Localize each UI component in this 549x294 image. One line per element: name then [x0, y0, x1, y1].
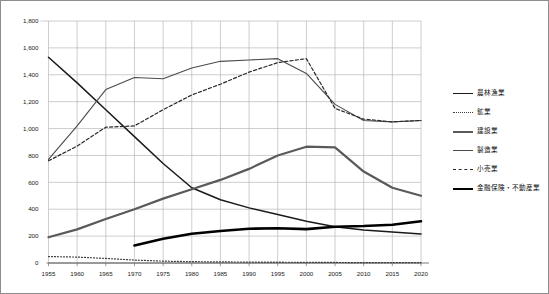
x-axis-tick-label: 2015	[385, 270, 399, 277]
y-axis-tick-label: 1,400	[23, 71, 39, 78]
legend-item[interactable]: 建設業	[453, 125, 549, 144]
x-axis-tick-label: 2000	[300, 270, 314, 277]
legend-item[interactable]: 農林漁業	[453, 87, 549, 106]
x-axis-tick-label: 2010	[357, 270, 371, 277]
legend-item[interactable]: 鉱業	[453, 106, 549, 125]
legend-line-swatch-icon	[453, 169, 473, 172]
legend-item-label: 建設業	[477, 127, 498, 135]
x-axis-tick-label: 1960	[70, 270, 84, 277]
legend-item[interactable]: 金融保険・不動産業	[453, 182, 549, 201]
legend-item-label: 製造業	[477, 146, 498, 154]
legend-item-label: 農林漁業	[477, 89, 505, 97]
series-line	[49, 147, 422, 237]
legend-item[interactable]: 小売業	[453, 163, 549, 182]
x-axis-tick-label: 1955	[42, 270, 56, 277]
x-axis-tick-label: 1970	[128, 270, 142, 277]
y-axis-tick-label: 0	[35, 259, 39, 266]
legend-line-swatch-icon	[453, 93, 473, 96]
legend-item-label: 小売業	[477, 165, 498, 173]
y-axis-tick-label: 1,800	[23, 17, 39, 24]
legend-line-swatch-icon	[453, 188, 473, 191]
legend-line-swatch-icon	[453, 112, 473, 115]
x-axis-labels: 1955196019651970197519801985199019952000…	[42, 270, 429, 277]
series-line	[49, 59, 422, 161]
x-axis-tick-label: 2005	[328, 270, 342, 277]
x-axis-tick-label: 1995	[271, 270, 285, 277]
x-axis-tick-label: 1980	[185, 270, 199, 277]
x-axis-ticks	[49, 263, 422, 266]
y-axis-tick-label: 600	[28, 179, 39, 186]
y-axis-tick-label: 1,600	[23, 44, 39, 51]
x-axis-tick-label: 1965	[99, 270, 113, 277]
legend-line-swatch-icon	[453, 131, 473, 134]
series-line	[49, 57, 422, 234]
x-axis-tick-label: 1990	[242, 270, 256, 277]
x-axis-tick-label: 2020	[414, 270, 428, 277]
legend-item-label: 鉱業	[477, 108, 491, 116]
y-axis-labels: 02004006008001,0001,2001,4001,6001,800	[23, 17, 39, 266]
data-series-group	[49, 57, 422, 262]
series-line	[49, 257, 422, 263]
chart-legend: 農林漁業鉱業建設業製造業小売業金融保険・不動産業	[453, 87, 549, 202]
x-axis-tick-label: 1975	[156, 270, 170, 277]
x-axis-tick-label: 1985	[214, 270, 228, 277]
y-axis-tick-label: 200	[28, 232, 39, 239]
y-axis-tick-label: 800	[28, 152, 39, 159]
y-axis-tick-label: 1,200	[23, 98, 39, 105]
y-axis-tick-label: 400	[28, 205, 39, 212]
chart-frame: 02004006008001,0001,2001,4001,6001,800 1…	[0, 0, 549, 294]
legend-item-label: 金融保険・不動産業	[477, 184, 540, 192]
legend-line-swatch-icon	[453, 150, 473, 153]
legend-item[interactable]: 製造業	[453, 144, 549, 163]
y-axis-tick-label: 1,000	[23, 125, 39, 132]
